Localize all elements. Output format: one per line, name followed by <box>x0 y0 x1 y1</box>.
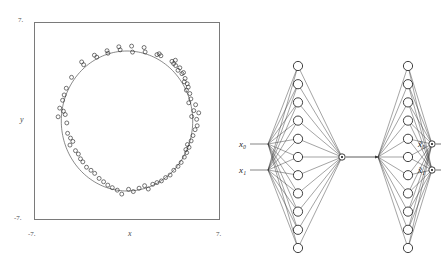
decoder-hidden-node <box>403 80 412 89</box>
encoder-edge <box>268 121 298 170</box>
decoder-hidden-node <box>403 98 412 107</box>
encoder-hidden-node <box>293 134 302 143</box>
scatter-point <box>82 63 86 67</box>
scatter-point <box>76 152 80 156</box>
scatter-point <box>70 75 74 79</box>
scatter-point <box>193 128 197 132</box>
scatter-point <box>194 103 198 107</box>
scatter-point <box>85 165 89 169</box>
encoder-hidden-node <box>293 207 302 216</box>
encoder-edge <box>298 157 342 193</box>
encoder-edge <box>298 84 342 157</box>
encoder-edge <box>298 157 342 175</box>
decoder-hidden-node <box>403 171 412 180</box>
encoder-edge <box>298 66 342 157</box>
decoder-hidden-node <box>403 61 412 70</box>
decoder-hidden-node <box>403 116 412 125</box>
scatter-point <box>102 180 106 184</box>
scatter-point <box>190 115 194 119</box>
decoder-hidden-node <box>403 225 412 234</box>
scatter-point <box>188 92 192 96</box>
scatter-point <box>74 149 78 153</box>
scatter-point <box>64 86 68 90</box>
x-axis-min-tick-label: -7. <box>28 231 36 238</box>
bottleneck-node-core <box>341 156 343 158</box>
decoder-hidden-node <box>403 189 412 198</box>
encoder-edge <box>298 157 342 212</box>
scatter-point <box>142 46 146 50</box>
decoder-hidden-node <box>403 152 412 161</box>
scatter-point <box>106 183 110 187</box>
output-node-core <box>431 143 433 145</box>
input-label-x1: x₁ <box>239 166 246 175</box>
encoder-hidden-node <box>293 171 302 180</box>
scatter-point <box>89 168 93 172</box>
encoder-hidden-node <box>293 80 302 89</box>
scatter-point <box>80 60 84 64</box>
encoder-edge <box>298 157 342 248</box>
decoder-edge <box>378 157 408 248</box>
decoder-hidden-node <box>403 134 412 143</box>
scatter-point <box>66 131 70 135</box>
scatter-point <box>56 115 60 119</box>
decoder-hidden-node <box>403 207 412 216</box>
scatter-point <box>195 117 199 121</box>
decoder-edge <box>378 102 408 157</box>
decoder-edge <box>378 66 408 157</box>
decoder-edge <box>408 84 432 144</box>
scatter-point <box>105 49 109 53</box>
y-axis-title: y <box>20 116 24 124</box>
scatter-point <box>131 190 135 194</box>
encoder-hidden-node <box>293 243 302 252</box>
encoder-hidden-node <box>293 189 302 198</box>
autoencoder-diagram-panel: x₀ x₁ x̃₀ x̃₁ <box>236 0 441 262</box>
scatter-point <box>81 160 85 164</box>
y-axis-max-tick-label: 7. <box>18 17 23 24</box>
decoder-edge <box>408 170 432 230</box>
scatter-point <box>97 176 101 180</box>
encoder-edge <box>298 102 342 157</box>
encoder-hidden-node <box>293 152 302 161</box>
scatter-point <box>195 124 199 128</box>
scatter-point <box>71 139 75 143</box>
encoder-edge <box>298 139 342 157</box>
y-axis-min-tick-label: -7. <box>14 215 22 222</box>
scatter-canvas <box>35 23 219 219</box>
x-axis-max-tick-label: 7. <box>216 231 221 238</box>
encoder-edge <box>268 170 298 230</box>
encoder-edge <box>268 84 298 144</box>
encoder-edge <box>298 121 342 157</box>
scatter-point <box>146 187 150 191</box>
encoder-edge <box>268 144 298 193</box>
scatter-point <box>130 44 134 48</box>
scatter-point <box>131 50 135 54</box>
scatter-point <box>192 109 196 113</box>
scatter-point <box>62 93 66 97</box>
encoder-hidden-node <box>293 98 302 107</box>
scatter-point <box>58 106 62 110</box>
scatter-point <box>65 121 69 125</box>
decoder-edge <box>378 157 408 212</box>
encoder-edge <box>298 157 342 230</box>
output-label-x1: x̃₁ <box>418 166 425 175</box>
encoder-hidden-node <box>293 116 302 125</box>
input-label-x0: x₀ <box>239 140 246 149</box>
scatter-point <box>155 53 159 57</box>
plot-frame <box>34 22 220 220</box>
scatter-point <box>68 143 72 147</box>
network-canvas <box>236 0 441 262</box>
scatter-plot-panel: 7. -7. -7. 7. y x <box>0 0 240 262</box>
x-axis-title: x <box>128 230 132 238</box>
decoder-edge <box>378 157 408 175</box>
scatter-point <box>197 111 201 115</box>
scatter-point <box>120 192 124 196</box>
encoder-hidden-node <box>293 225 302 234</box>
encoder-hidden-node <box>293 61 302 70</box>
output-node-core <box>431 169 433 171</box>
scatter-point <box>63 113 67 117</box>
scatter-point <box>143 184 147 188</box>
decoder-edge <box>378 139 408 157</box>
figure-root: 7. -7. -7. 7. y x x₀ x₁ x̃₀ x̃₁ <box>0 0 441 262</box>
decoder-hidden-node <box>403 243 412 252</box>
scatter-point <box>93 171 97 175</box>
